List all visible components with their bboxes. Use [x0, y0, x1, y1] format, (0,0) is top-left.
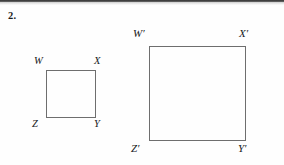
vertex-label-y-prime: Y′	[238, 143, 247, 154]
square-large	[149, 46, 246, 141]
vertex-label-w: W	[34, 56, 43, 67]
vertex-label-w-prime: W′	[133, 28, 145, 39]
vertex-label-z: Z	[32, 119, 38, 130]
square-small	[46, 70, 96, 118]
vertex-label-z-prime: Z′	[131, 143, 140, 154]
scan-edge-artifact-fade	[0, 3, 284, 5]
document-page: 2. W X Z Y W′ X′ Z′ Y′	[0, 0, 284, 165]
vertex-label-x-prime: X′	[239, 28, 248, 39]
problem-number: 2.	[8, 10, 16, 21]
vertex-label-x: X	[94, 56, 100, 67]
vertex-label-y: Y	[94, 119, 100, 130]
